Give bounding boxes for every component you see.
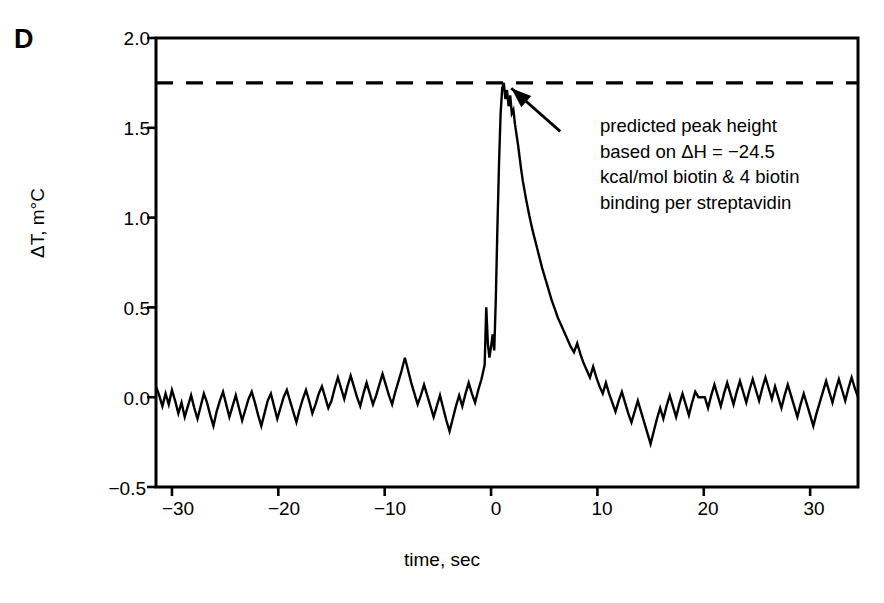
temperature-trace-line <box>156 83 858 444</box>
plot-area <box>0 0 884 603</box>
axes-frame <box>156 38 858 487</box>
chart-figure: D ΔT, m°C time, sec 2.0 1.5 1.0 0.5 0.0 … <box>0 0 884 603</box>
axis-ticks <box>147 38 810 496</box>
annotation-arrow <box>511 88 560 131</box>
